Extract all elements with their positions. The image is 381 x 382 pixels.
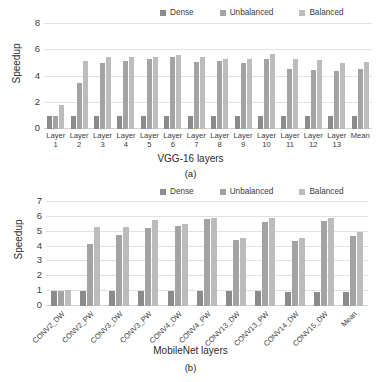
bar-group xyxy=(309,202,338,306)
bar-balanced[interactable] xyxy=(364,62,369,129)
bar-unbalanced[interactable] xyxy=(123,61,128,129)
plot-area-b: 01234567 xyxy=(46,202,368,306)
x-axis-tick-label-line: 3 xyxy=(91,140,114,149)
bar-dense[interactable] xyxy=(138,291,144,306)
bar-dense[interactable] xyxy=(281,116,286,129)
bar-balanced[interactable] xyxy=(83,61,88,129)
bar-balanced[interactable] xyxy=(65,290,71,306)
bar-unbalanced[interactable] xyxy=(287,69,292,129)
bar-dense[interactable] xyxy=(71,116,76,129)
bar-group xyxy=(163,202,192,306)
legend-swatch-icon xyxy=(299,10,305,16)
bar-balanced[interactable] xyxy=(129,57,134,129)
legend-item-unbalanced[interactable]: Unbalanced xyxy=(220,188,274,196)
bar-balanced[interactable] xyxy=(153,57,158,129)
bar-dense[interactable] xyxy=(164,116,169,129)
x-axis-tick-label: Mean xyxy=(348,131,371,149)
bar-dense[interactable] xyxy=(328,116,333,129)
bar-unbalanced[interactable] xyxy=(233,240,239,306)
bar-dense[interactable] xyxy=(117,116,122,129)
bar-unbalanced[interactable] xyxy=(350,236,356,306)
bar-balanced[interactable] xyxy=(176,55,181,129)
legend-item-unbalanced[interactable]: Unbalanced xyxy=(220,9,274,17)
bar-balanced[interactable] xyxy=(152,220,158,306)
bar-unbalanced[interactable] xyxy=(147,59,152,129)
bar-dense[interactable] xyxy=(51,291,57,306)
legend-item-dense[interactable]: Dense xyxy=(160,9,194,17)
bar-unbalanced[interactable] xyxy=(262,222,268,306)
bar-unbalanced[interactable] xyxy=(175,226,181,306)
bar-group xyxy=(138,24,161,129)
bar-balanced[interactable] xyxy=(240,238,246,306)
x-axis-tick-label-line: Layer xyxy=(91,131,114,140)
x-axis-tick-label-line: 10 xyxy=(255,140,278,149)
bar-dense[interactable] xyxy=(235,116,240,129)
bar-unbalanced[interactable] xyxy=(170,57,175,129)
bar-unbalanced[interactable] xyxy=(116,235,122,306)
bar-dense[interactable] xyxy=(197,291,203,306)
bar-unbalanced[interactable] xyxy=(264,59,269,129)
bar-unbalanced[interactable] xyxy=(145,228,151,306)
legend-swatch-icon xyxy=(160,189,166,195)
bar-unbalanced[interactable] xyxy=(334,71,339,129)
x-axis-tick-label-line: 9 xyxy=(231,140,254,149)
bar-dense[interactable] xyxy=(109,291,115,306)
bar-balanced[interactable] xyxy=(357,232,363,306)
bar-dense[interactable] xyxy=(352,116,357,129)
bar-unbalanced[interactable] xyxy=(194,62,199,129)
bar-unbalanced[interactable] xyxy=(311,70,316,129)
bar-balanced[interactable] xyxy=(269,218,275,306)
bar-dense[interactable] xyxy=(258,116,263,129)
x-axis-tick-label: Layer10 xyxy=(255,131,278,149)
bar-unbalanced[interactable] xyxy=(53,116,58,129)
bar-unbalanced[interactable] xyxy=(87,244,93,306)
bar-dense[interactable] xyxy=(226,291,232,306)
bar-unbalanced[interactable] xyxy=(358,69,363,129)
legend-item-balanced[interactable]: Balanced xyxy=(299,188,343,196)
y-axis-tick-label: 6 xyxy=(37,211,42,221)
bar-unbalanced[interactable] xyxy=(321,221,327,306)
bar-balanced[interactable] xyxy=(317,60,322,129)
bar-balanced[interactable] xyxy=(94,227,100,306)
bar-dense[interactable] xyxy=(255,291,261,306)
bar-dense[interactable] xyxy=(314,292,320,306)
x-axis-tick-label-line: 4 xyxy=(114,140,137,149)
bar-balanced[interactable] xyxy=(223,59,228,129)
bar-balanced[interactable] xyxy=(299,238,305,306)
bar-dense[interactable] xyxy=(343,292,349,306)
bar-unbalanced[interactable] xyxy=(204,219,210,306)
y-axis-tick-label: 4 xyxy=(37,241,42,251)
bar-balanced[interactable] xyxy=(123,227,129,306)
bar-balanced[interactable] xyxy=(106,57,111,129)
bar-group xyxy=(222,202,251,306)
bar-dense[interactable] xyxy=(285,292,291,306)
bar-unbalanced[interactable] xyxy=(217,61,222,129)
x-axis-tick-label-line: Layer xyxy=(114,131,137,140)
bar-unbalanced[interactable] xyxy=(292,241,298,306)
bar-balanced[interactable] xyxy=(211,218,217,306)
legend-item-dense[interactable]: Dense xyxy=(160,188,194,196)
x-axis-tick-labels-b: CONV2_DWCONV2_PWCONV3_DWCONV3_PWCONV4_DW… xyxy=(46,308,368,366)
bar-group xyxy=(67,24,90,129)
bar-unbalanced[interactable] xyxy=(77,83,82,129)
bar-dense[interactable] xyxy=(168,291,174,306)
bar-dense[interactable] xyxy=(141,116,146,129)
bar-balanced[interactable] xyxy=(328,218,334,306)
legend-item-balanced[interactable]: Balanced xyxy=(299,9,343,17)
bar-dense[interactable] xyxy=(80,291,86,306)
bar-balanced[interactable] xyxy=(59,105,64,129)
bar-dense[interactable] xyxy=(211,116,216,129)
bar-unbalanced[interactable] xyxy=(100,63,105,129)
bar-dense[interactable] xyxy=(47,116,52,129)
bar-balanced[interactable] xyxy=(293,59,298,129)
bar-dense[interactable] xyxy=(305,116,310,129)
bar-balanced[interactable] xyxy=(200,57,205,129)
bar-unbalanced[interactable] xyxy=(58,291,64,306)
bar-balanced[interactable] xyxy=(340,63,345,129)
bar-dense[interactable] xyxy=(94,116,99,129)
bar-balanced[interactable] xyxy=(247,59,252,129)
bar-dense[interactable] xyxy=(188,116,193,129)
bar-unbalanced[interactable] xyxy=(241,63,246,129)
bar-balanced[interactable] xyxy=(182,224,188,306)
bar-balanced[interactable] xyxy=(270,54,275,129)
